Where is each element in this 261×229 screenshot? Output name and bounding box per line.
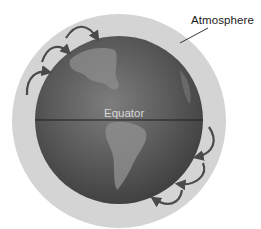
- atmosphere-circulation-diagram: Atmosphere Equator: [0, 0, 261, 229]
- atmosphere-label: Atmosphere: [191, 14, 254, 26]
- atmosphere-leader-line: [180, 28, 208, 43]
- equator-label: Equator: [104, 107, 144, 119]
